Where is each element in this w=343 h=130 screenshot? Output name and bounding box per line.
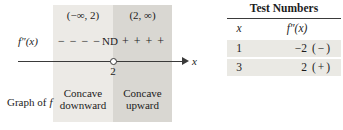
test-x-value: 3 [230, 59, 248, 76]
breakpoint-tick-label: 2 [106, 65, 120, 77]
table-header-rule [227, 18, 341, 19]
second-derivative-label: f″(x) [18, 35, 38, 47]
table-row: 1 −2 (−) [227, 40, 341, 57]
number-line [18, 61, 184, 62]
concavity-sign-chart-figure: (−∞, 2) (2, ∞) f″(x) − − − − ND + + + + … [0, 0, 343, 130]
arrow-right-icon [182, 57, 189, 65]
interval-label-left: (−∞, 2) [53, 9, 113, 21]
open-circle-icon [110, 58, 117, 65]
fpp-value: −2 [262, 40, 307, 57]
concave-downward-label: Concave downward [53, 87, 113, 111]
table-header-x: x [230, 22, 248, 34]
fpp-sign: (+) [312, 59, 340, 76]
concave-downward-line2: downward [53, 99, 113, 111]
graph-of-f-variable: f [49, 96, 52, 108]
positive-signs: + + + + [122, 34, 164, 49]
table-row: 3 2 (+) [227, 59, 341, 76]
negative-signs: − − − − [58, 34, 100, 49]
not-defined-label: ND [102, 35, 118, 47]
table-title: Test Numbers [227, 2, 341, 14]
concave-downward-line1: Concave [53, 87, 113, 99]
concave-upward-label: Concave upward [113, 87, 172, 111]
table-header-fpp: f″(x) [272, 22, 322, 34]
concave-upward-line2: upward [113, 99, 172, 111]
fpp-sign: (−) [312, 40, 340, 57]
concave-upward-line1: Concave [113, 87, 172, 99]
axis-variable-label: x [192, 55, 197, 67]
test-x-value: 1 [230, 40, 248, 57]
interval-label-right: (2, ∞) [113, 9, 172, 21]
graph-of-f-prefix: Graph of [7, 96, 46, 108]
graph-of-f-label: Graph off [7, 96, 52, 108]
fpp-value: 2 [262, 59, 307, 76]
